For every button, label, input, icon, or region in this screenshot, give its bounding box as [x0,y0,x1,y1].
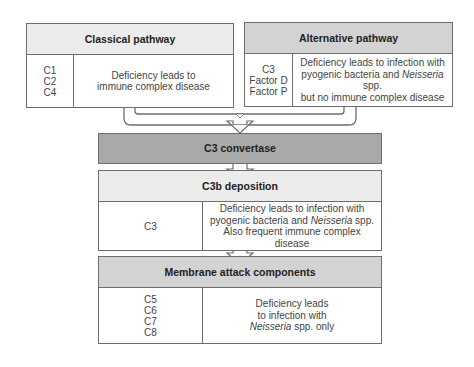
component: C5 [144,294,157,305]
membrane-attack-box: Membrane attack components C5 C6 C7 C8 D… [98,256,382,344]
membrane-attack-title: Membrane attack components [99,257,381,288]
component: C7 [144,316,157,327]
membrane-description: Deficiency leads to infection with Neiss… [203,288,381,343]
component: C8 [144,327,157,338]
component: C6 [144,305,157,316]
membrane-components: C5 C6 C7 C8 [99,288,203,343]
